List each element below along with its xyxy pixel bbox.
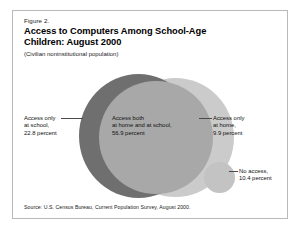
label-access-only-at-school: Access only at school, 22.8 percent	[24, 115, 57, 137]
label-home-only-line-1: Access only	[213, 115, 244, 122]
leader-line-home-only	[199, 118, 212, 119]
label-both-line-2: at home and at school,	[112, 122, 172, 129]
venn-diagram: Access only at school, 22.8 percent Acce…	[13, 11, 289, 220]
label-access-only-at-home: Access only at home, 9.9 percent	[213, 115, 244, 137]
label-no-access-line-1: No access,	[239, 168, 272, 175]
label-both-value: 56.9 percent	[112, 130, 172, 137]
label-no-access: No access, 10.4 percent	[239, 168, 272, 183]
label-school-only-line-2: at school,	[24, 122, 57, 129]
figure-frame: Figure 2. Access to Computers Among Scho…	[12, 10, 288, 219]
label-both-line-1: Access both	[112, 115, 172, 122]
label-school-only-line-1: Access only	[24, 115, 57, 122]
leader-line-school-only	[61, 118, 83, 119]
leader-line-no-access	[229, 171, 238, 172]
circle-access-both-home-and-school	[99, 81, 213, 194]
circle-no-access	[204, 162, 235, 193]
label-access-both-home-and-school: Access both at home and at school, 56.9 …	[112, 115, 172, 137]
figure-source: Source: U.S. Census Bureau, Current Popu…	[24, 204, 190, 211]
label-home-only-value: 9.9 percent	[213, 130, 244, 137]
label-home-only-line-2: at home,	[213, 122, 244, 129]
label-school-only-value: 22.8 percent	[24, 130, 57, 137]
label-no-access-value: 10.4 percent	[239, 175, 272, 182]
